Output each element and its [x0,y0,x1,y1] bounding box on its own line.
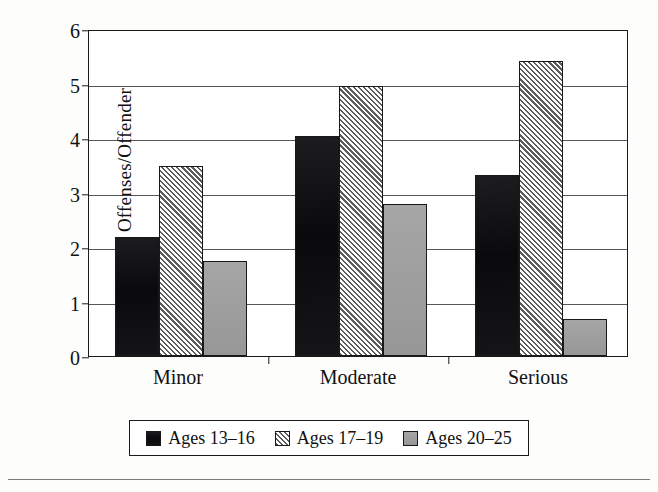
x-tick-label-minor: Minor [153,366,203,389]
bar-moderate-series-0 [295,136,339,356]
legend-item-2: Ages 20–25 [403,428,512,449]
y-tick-label: 1 [70,294,80,314]
legend-swatch-icon [275,431,290,446]
y-tick-mark [82,139,89,140]
plot-area: 0123456 Offenses/Offender [88,30,628,357]
x-tick-mark [268,356,269,364]
bar-minor-series-2 [203,261,247,356]
y-tick-label: 2 [70,239,80,259]
y-tick-label: 0 [70,348,80,368]
bar-moderate-series-1 [339,86,383,356]
y-tick-label: 4 [70,130,80,150]
bar-serious-series-2 [563,319,607,356]
bar-serious-series-0 [475,175,519,356]
y-tick-mark [82,248,89,249]
bottom-divider [8,479,650,480]
x-tick-mark [448,356,449,364]
y-tick-mark [82,357,89,358]
y-tick-mark [82,85,89,86]
legend-item-1: Ages 17–19 [275,428,384,449]
y-tick-label: 5 [70,76,80,96]
x-tick-label-serious: Serious [508,366,568,389]
y-axis-label: Offenses/Offender [114,20,136,300]
legend-swatch-icon [403,431,418,446]
legend-label: Ages 13–16 [168,428,255,449]
bar-minor-series-1 [159,166,203,356]
y-tick-mark [82,303,89,304]
legend-label: Ages 20–25 [425,428,512,449]
bar-serious-series-1 [519,61,563,356]
chart-legend: Ages 13–16Ages 17–19Ages 20–25 [129,420,529,456]
legend-label: Ages 17–19 [297,428,384,449]
bars-layer [89,31,627,356]
x-tick-label-moderate: Moderate [320,366,397,389]
y-tick-label: 3 [70,185,80,205]
bar-moderate-series-2 [383,204,427,356]
y-tick-mark [82,194,89,195]
y-tick-label: 6 [70,21,80,41]
y-tick-mark [82,30,89,31]
legend-item-0: Ages 13–16 [146,428,255,449]
chart-figure: 0123456 Offenses/Offender MinorModerateS… [0,0,658,492]
legend-swatch-icon [146,431,161,446]
